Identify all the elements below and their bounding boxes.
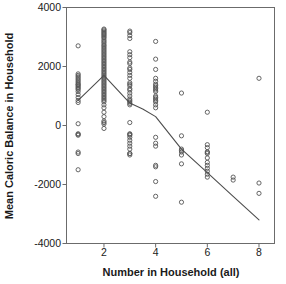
y-tick-label: 0 <box>55 119 61 131</box>
y-tick-label: 4000 <box>38 1 62 13</box>
x-tick-label: 2 <box>101 246 107 258</box>
y-axis-label: Mean Caloric Balance in Household <box>3 33 15 219</box>
x-tick-label: 8 <box>256 246 262 258</box>
scatter-plot-canvas: 400020000-2000-4000 2468 Number in House… <box>0 0 286 284</box>
y-tick-label: -2000 <box>34 178 61 190</box>
x-axis-label: Number in Household (all) <box>103 266 240 278</box>
x-tick-label: 6 <box>204 246 210 258</box>
y-tick-label: -4000 <box>34 237 61 249</box>
x-tick-label: 4 <box>153 246 159 258</box>
chart-figure: 400020000-2000-4000 2468 Number in House… <box>0 0 286 284</box>
y-tick-label: 2000 <box>38 60 62 72</box>
